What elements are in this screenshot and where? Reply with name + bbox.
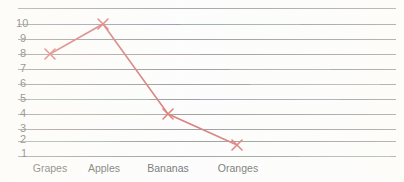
y-tick-label-5: 5 xyxy=(20,93,26,104)
y-tick-label-6: 6 xyxy=(20,78,26,89)
x-tick-label-grapes: Grapes xyxy=(18,163,82,174)
scan-artifact-group xyxy=(22,25,390,157)
y-tick-label-2: 2 xyxy=(20,134,26,145)
y-tick-label-1: 1 xyxy=(21,148,27,159)
gridline-group xyxy=(18,25,396,157)
y-tick-label-8: 8 xyxy=(20,48,26,59)
x-tick-label-apples: Apples xyxy=(74,163,134,174)
y-tick-label-7: 7 xyxy=(20,63,26,74)
x-tick-label-oranges: Oranges xyxy=(202,163,274,174)
y-tick-label-9: 9 xyxy=(20,33,26,44)
x-tick-label-bananas: Bananas xyxy=(132,163,204,174)
line-chart: 10 9 8 7 6 5 4 3 2 1 Grapes Apples Banan… xyxy=(0,0,404,182)
chart-plot-area xyxy=(0,0,404,182)
y-tick-label-4: 4 xyxy=(20,108,26,119)
y-tick-label-10: 10 xyxy=(16,18,28,29)
